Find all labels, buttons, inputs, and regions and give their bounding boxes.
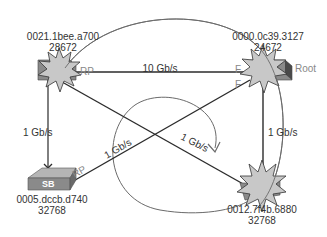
switch-top-right-priority: 24672 — [254, 42, 282, 53]
switch-top-left — [38, 48, 81, 92]
switch-bottom-right-priority: 32768 — [248, 215, 276, 226]
switch-bottom-right-mac: 0012.7f4b.6880 — [227, 204, 297, 215]
switch-top-left-mac: 0021.1bee.a700 — [27, 31, 99, 42]
link-bottom-left-top-right — [70, 80, 250, 183]
link-speed-right: 1 Gb/s — [268, 127, 297, 138]
port-label-top-right-f2: F — [235, 79, 241, 90]
link-speed-left: 1 Gb/s — [23, 127, 52, 138]
switch-bottom-left-priority: 32768 — [38, 205, 66, 216]
switch-top-left-priority: 28672 — [49, 42, 77, 53]
switch-sb-label: SB — [42, 179, 55, 190]
switch-bottom-left-mac: 0005.dccb.d740 — [16, 194, 87, 205]
circular-arrow-icon — [113, 97, 250, 213]
root-bridge-label: Root — [295, 63, 316, 74]
port-label-top-right-f1: F — [235, 64, 241, 75]
port-label-top-left-rp: RP — [80, 66, 94, 77]
switch-top-right-mac: 0000.0c39.3127 — [232, 31, 304, 42]
link-speed-top: 10 Gb/s — [142, 63, 177, 74]
